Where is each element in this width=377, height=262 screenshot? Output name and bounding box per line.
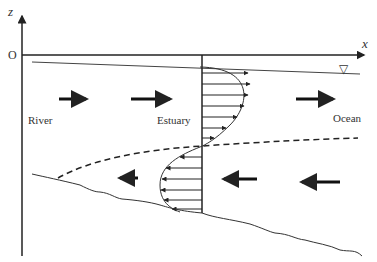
seaward-velocity-arrows <box>202 73 250 138</box>
lower-flow-arrows <box>120 178 340 182</box>
ocean-label: Ocean <box>333 112 361 124</box>
seabed-profile <box>32 174 362 256</box>
x-axis-label: x <box>362 36 368 52</box>
estuary-circulation-diagram <box>0 0 377 262</box>
landward-velocity-arrows <box>161 157 202 209</box>
water-surface-line <box>32 62 360 74</box>
origin-label: O <box>8 48 17 63</box>
water-surface-symbol: ▽ <box>339 62 348 77</box>
estuary-label: Estuary <box>157 114 191 126</box>
z-axis-label: z <box>8 4 13 20</box>
river-label: River <box>28 114 52 126</box>
interface-dashed-line <box>58 138 358 178</box>
